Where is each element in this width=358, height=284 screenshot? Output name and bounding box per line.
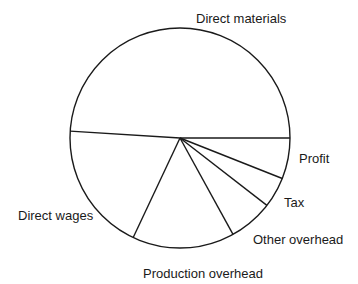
label-profit: Profit	[299, 152, 329, 166]
label-direct-wages: Direct wages	[18, 209, 93, 223]
label-direct-materials: Direct materials	[196, 12, 286, 26]
label-production-overhead: Production overhead	[143, 267, 263, 281]
label-tax: Tax	[284, 196, 304, 210]
label-other-overhead: Other overhead	[253, 233, 343, 247]
